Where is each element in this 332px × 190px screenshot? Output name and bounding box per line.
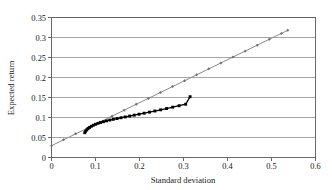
x-tick-label: 0.6	[310, 162, 320, 171]
x-tick-label: 0.4	[222, 162, 233, 171]
y-tick-label: 0.15	[31, 94, 46, 103]
y-tick-label: 0.3	[36, 34, 46, 43]
y-tick-label: 0.25	[31, 54, 46, 63]
y-tick-label: 0.05	[31, 134, 46, 143]
data-point-marker	[138, 113, 141, 116]
data-point-marker	[108, 119, 111, 122]
data-point-marker	[102, 120, 105, 123]
data-point-marker	[189, 95, 192, 98]
data-point-marker	[128, 115, 131, 118]
data-point-marker	[148, 111, 151, 114]
x-tick-label: 0.3	[178, 162, 188, 171]
data-point-marker	[112, 118, 115, 121]
y-tick-label: 0.2	[36, 74, 46, 83]
y-axis-title: Expected return	[6, 60, 16, 115]
data-point-marker	[178, 104, 181, 107]
chart-container: 00.10.20.30.40.50.6 00.050.10.150.20.250…	[0, 0, 332, 190]
x-tick-label: 0.1	[90, 162, 100, 171]
x-axis-title: Standard deviation	[151, 175, 216, 185]
data-point-marker	[116, 117, 119, 120]
x-tick-label: 0.2	[134, 162, 144, 171]
data-point-marker	[143, 112, 146, 115]
y-tick-label: 0.35	[31, 14, 46, 23]
x-tick-label: 0	[49, 162, 53, 171]
data-point-marker	[99, 121, 102, 124]
data-point-marker	[96, 122, 99, 125]
data-point-marker	[105, 119, 108, 122]
expected-return-vs-standard-deviation-chart: 00.10.20.30.40.50.6 00.050.10.150.20.250…	[0, 0, 332, 190]
data-point-marker	[153, 110, 156, 113]
x-tick-label: 0.5	[266, 162, 276, 171]
data-point-marker	[124, 115, 127, 118]
data-point-marker	[184, 103, 187, 106]
data-point-marker	[133, 114, 136, 117]
data-point-marker	[159, 108, 162, 111]
data-point-marker	[120, 116, 123, 119]
data-point-marker	[165, 107, 168, 110]
data-point-marker	[171, 106, 174, 109]
y-tick-label: 0	[42, 154, 46, 163]
y-tick-label: 0.1	[36, 114, 46, 123]
